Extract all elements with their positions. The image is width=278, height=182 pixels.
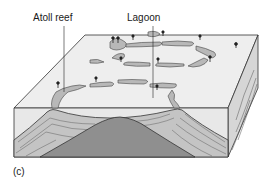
reef-islet	[162, 41, 194, 46]
reef-islet	[118, 80, 148, 85]
reef-islet	[150, 83, 176, 88]
lagoon-label: Lagoon	[127, 13, 160, 23]
reef-islet	[156, 63, 185, 67]
atoll-reef-label: Atoll reef	[33, 13, 72, 23]
panel-label: (c)	[13, 167, 25, 177]
atoll-block-diagram	[0, 0, 278, 182]
reef-islet	[124, 62, 151, 66]
